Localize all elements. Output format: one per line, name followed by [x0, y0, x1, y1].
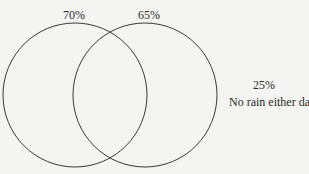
outside-label: No rain either day	[229, 95, 309, 110]
set-label-right: 65%	[138, 8, 160, 23]
outside-value: 25%	[253, 78, 275, 93]
set-label-left: 70%	[63, 8, 85, 23]
set-circle-left	[3, 23, 147, 167]
set-circle-right	[73, 23, 217, 167]
